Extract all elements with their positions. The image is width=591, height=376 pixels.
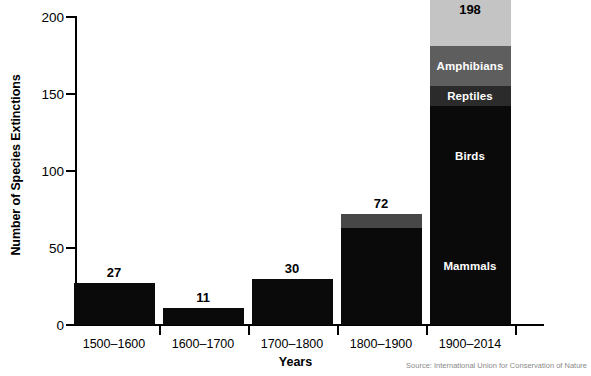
x-tick-1 (159, 326, 161, 335)
bar-total-label-1900-2014: 198 (459, 2, 481, 17)
bar-1600-1700[interactable] (163, 308, 244, 325)
species-extinctions-chart: Number of Species Extinctions 0501001502… (0, 0, 591, 376)
x-tick-label-1700-1800: 1700–1800 (261, 337, 324, 351)
x-tick-label-1500-1600: 1500–1600 (83, 337, 146, 351)
bar-segment-mammals[interactable] (163, 308, 244, 325)
bar-segment-mammals[interactable] (252, 279, 333, 325)
x-tick-3 (337, 326, 339, 335)
bar-total-label-1600-1700: 11 (196, 290, 210, 305)
segment-label-amphibians: Amphibians (437, 60, 504, 72)
y-tick-label-100: 100 (24, 164, 64, 179)
bar-1800-1900[interactable] (341, 214, 422, 325)
source-note: Source: International Union for Conserva… (406, 361, 587, 370)
bar-total-label-1700-1800: 30 (285, 261, 299, 276)
x-tick-4 (426, 326, 428, 335)
bar-total-label-1800-1900: 72 (374, 196, 388, 211)
y-tick-label-150: 150 (24, 87, 64, 102)
bar-total-label-1500-1600: 27 (107, 265, 121, 280)
x-tick-label-1600-1700: 1600–1700 (172, 337, 235, 351)
y-tick-label-200: 200 (24, 10, 64, 25)
y-tick-50 (66, 247, 77, 249)
y-tick-200 (66, 16, 77, 18)
segment-label-reptiles: Reptiles (447, 90, 493, 102)
bar-1500-1600[interactable] (74, 283, 155, 325)
bar-segment-birds[interactable]: Birds (430, 106, 511, 206)
y-tick-label-0: 0 (24, 318, 64, 333)
segment-label-mammals: Mammals (443, 260, 496, 272)
y-tick-150 (66, 93, 77, 95)
bar-segment-amphibians[interactable]: Amphibians (430, 46, 511, 86)
x-tick-label-1900-2014: 1900–2014 (439, 337, 502, 351)
bar-1900-2014[interactable]: MammalsBirdsReptilesAmphibiansFish (430, 20, 511, 325)
bar-segment-mammals[interactable] (74, 283, 155, 325)
y-tick-100 (66, 170, 77, 172)
y-tick-label-50: 50 (24, 241, 64, 256)
bar-segment-reptiles[interactable]: Reptiles (430, 86, 511, 106)
segment-label-fish: Fish (458, 0, 482, 1)
bar-segment-mammals[interactable]: Mammals (430, 206, 511, 325)
bar-segment-mammals[interactable] (341, 228, 422, 325)
x-tick-2 (248, 326, 250, 335)
x-tick-5 (515, 326, 517, 335)
bar-segment-amphibians[interactable] (341, 214, 422, 228)
x-tick-label-1800-1900: 1800–1900 (350, 337, 413, 351)
segment-label-birds: Birds (455, 150, 485, 162)
y-axis-title-text: Number of Species Extinctions (9, 74, 23, 255)
bar-1700-1800[interactable] (252, 279, 333, 325)
